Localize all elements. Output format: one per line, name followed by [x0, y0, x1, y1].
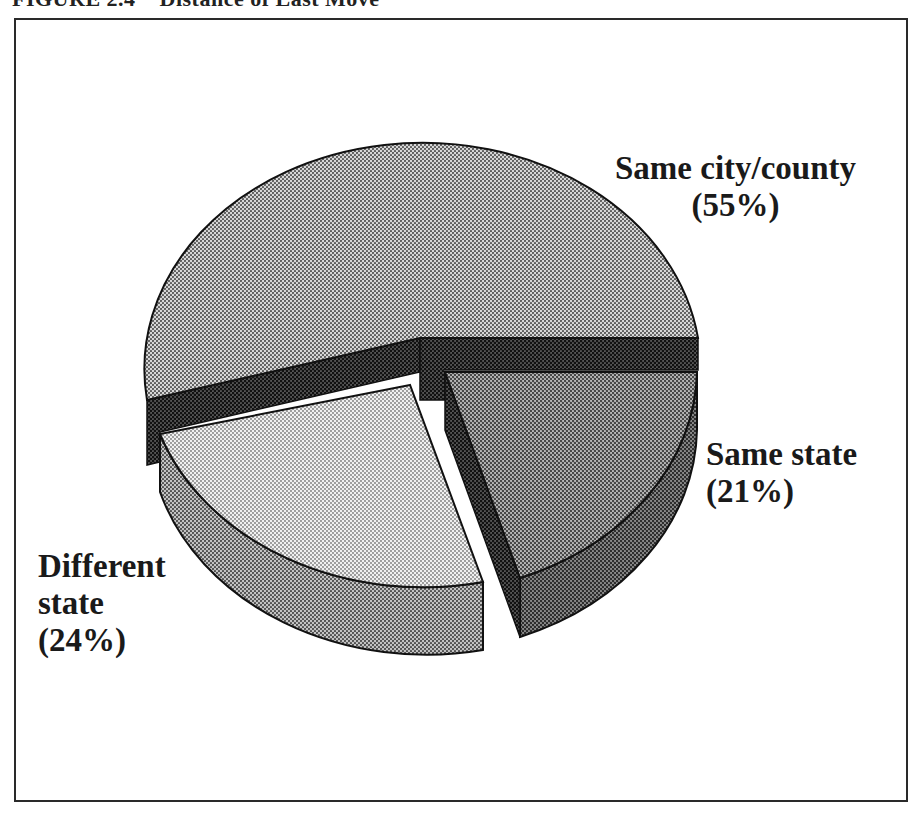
pie-chart — [0, 0, 922, 815]
label-different-state-line1: Different — [38, 548, 166, 585]
slice-different-state — [160, 385, 483, 655]
label-same-city-name: Same city/county — [615, 150, 856, 186]
label-different-state-pct: (24%) — [38, 622, 166, 659]
label-same-city-pct: (55%) — [615, 187, 856, 224]
label-same-state-pct: (21%) — [706, 473, 857, 510]
label-same-state-name: Same state — [706, 436, 857, 472]
label-same-state: Same state (21%) — [706, 436, 857, 510]
label-same-city: Same city/county (55%) — [615, 150, 856, 224]
label-different-state-line2: state — [38, 585, 166, 622]
label-different-state: Different state (24%) — [38, 548, 166, 659]
